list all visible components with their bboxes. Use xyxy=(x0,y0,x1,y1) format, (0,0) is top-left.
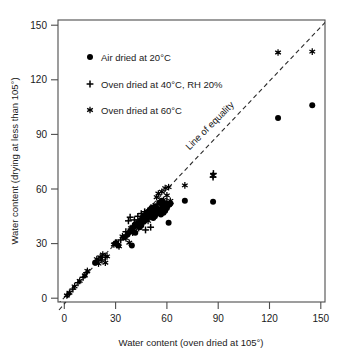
x-tick-label: 60 xyxy=(161,313,173,324)
data-point xyxy=(309,102,315,108)
legend-item-oven-dried-60c: Oven dried at 60°C xyxy=(87,105,182,116)
plus-marker-icon xyxy=(87,81,94,88)
x-tick-label: 120 xyxy=(261,313,278,324)
series-1 xyxy=(64,170,216,298)
y-tick-label: 120 xyxy=(30,74,47,85)
y-tick-label: 150 xyxy=(30,20,47,31)
plot-canvas: 150 120 90 60 30 0 0 30 60 90 120 150 Wa… xyxy=(0,0,347,362)
y-tick-label: 60 xyxy=(36,184,48,195)
data-point xyxy=(182,182,188,189)
data-point xyxy=(164,192,170,199)
data-point xyxy=(166,220,172,226)
y-tick-label: 0 xyxy=(41,293,47,304)
x-axis-ticks xyxy=(64,302,321,309)
scatter-plot-figure: 150 120 90 60 30 0 0 30 60 90 120 150 Wa… xyxy=(0,0,347,362)
y-axis-title: Water content (drying at less than 105°) xyxy=(9,77,20,244)
legend-item-label: Air dried at 20°C xyxy=(101,52,171,63)
x-axis-tick-labels: 0 30 60 90 120 150 xyxy=(62,313,330,324)
filled-circle-marker-icon xyxy=(87,54,93,60)
x-tick-label: 90 xyxy=(213,313,225,324)
y-axis-tick-labels: 150 120 90 60 30 0 xyxy=(30,20,47,304)
data-point xyxy=(182,198,188,204)
y-axis-ticks xyxy=(51,25,58,298)
legend-item-label: Oven dried at 60°C xyxy=(101,105,182,116)
legend-item-oven-dried-40c: Oven dried at 40°C, RH 20% xyxy=(87,79,224,90)
legend-item-label: Oven dried at 40°C, RH 20% xyxy=(101,79,223,90)
x-tick-label: 30 xyxy=(110,313,122,324)
x-axis-title: Water content (oven dried at 105°) xyxy=(119,337,264,348)
asterisk-marker-icon xyxy=(87,107,93,114)
data-point xyxy=(275,49,281,56)
line-of-equality-stub xyxy=(59,302,66,310)
legend-item-air-dried-20c: Air dried at 20°C xyxy=(87,52,171,63)
data-point xyxy=(309,48,315,55)
data-point xyxy=(275,115,281,121)
x-tick-label: 0 xyxy=(62,313,68,324)
x-tick-label: 150 xyxy=(312,313,329,324)
y-tick-label: 90 xyxy=(36,129,48,140)
y-tick-label: 30 xyxy=(36,238,48,249)
line-of-equality-label: Line of equality xyxy=(183,99,236,152)
data-point xyxy=(210,199,216,205)
legend: Air dried at 20°C Oven dried at 40°C, RH… xyxy=(87,52,224,116)
